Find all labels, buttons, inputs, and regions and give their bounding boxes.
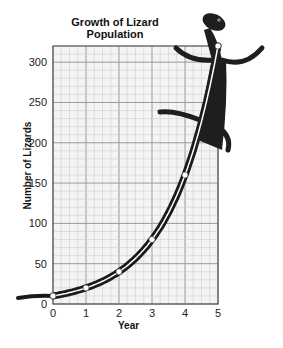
data-point bbox=[83, 285, 89, 291]
data-point bbox=[149, 237, 155, 243]
data-point bbox=[215, 43, 221, 49]
y-tick-label: 200 bbox=[29, 137, 47, 149]
y-tick-label: 150 bbox=[29, 177, 47, 189]
lizard-head bbox=[200, 10, 229, 35]
x-tick-label: 0 bbox=[50, 307, 56, 319]
y-tick-label: 50 bbox=[35, 258, 47, 270]
chart-plot: 012345050100150200250300 bbox=[0, 0, 283, 348]
y-tick-label: 0 bbox=[41, 298, 47, 310]
x-tick-label: 1 bbox=[83, 307, 89, 319]
lizard-eye bbox=[217, 18, 221, 22]
y-tick-label: 100 bbox=[29, 217, 47, 229]
lizard-tail bbox=[18, 296, 53, 298]
x-tick-label: 2 bbox=[116, 307, 122, 319]
data-point bbox=[50, 293, 56, 299]
y-tick-label: 250 bbox=[29, 96, 47, 108]
x-tick-label: 5 bbox=[215, 307, 221, 319]
x-tick-label: 3 bbox=[149, 307, 155, 319]
lizard-front-right-leg bbox=[222, 48, 262, 62]
y-tick-label: 300 bbox=[29, 56, 47, 68]
x-tick-label: 4 bbox=[182, 307, 188, 319]
data-point bbox=[116, 269, 122, 275]
data-point bbox=[182, 172, 188, 178]
